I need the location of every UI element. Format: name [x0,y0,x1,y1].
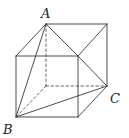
edge-top-left-connector [16,24,46,56]
edge-A-to-B [16,24,46,117]
cube-diagram: A B C [0,0,129,138]
tetrahedron-edges [16,24,107,117]
edge-front-top-right-to-C [78,56,107,86]
hidden-edges [16,24,107,117]
vertex-label-B: B [2,122,13,137]
vertex-label-A: A [40,6,50,21]
edge-top-right-connector [78,24,107,56]
edge-B-to-C [16,86,107,117]
cube-edges [16,24,107,117]
vertex-label-C: C [110,91,120,106]
edge-A-to-front-top-right [46,24,78,56]
